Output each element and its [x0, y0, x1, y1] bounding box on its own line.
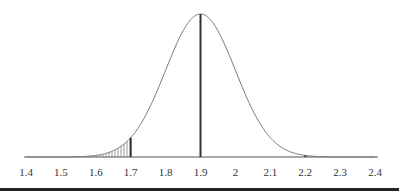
shaded-left-tail	[26, 138, 131, 157]
x-tick-label: 1.8	[159, 166, 173, 178]
x-tick-label: 2.2	[298, 166, 312, 178]
x-tick-label: 2.4	[368, 166, 382, 178]
bottom-rule	[0, 188, 399, 191]
x-tick-label: 2.3	[333, 166, 347, 178]
vertical-markers	[131, 14, 306, 157]
x-tick-label: 2.1	[263, 166, 277, 178]
x-tick-labels: 1.41.51.61.71.81.922.12.22.32.4	[19, 166, 382, 178]
x-tick-label: 1.4	[19, 166, 33, 178]
x-tick-label: 1.9	[194, 166, 208, 178]
x-tick-label: 1.6	[89, 166, 103, 178]
x-tick-label: 2	[233, 166, 239, 178]
x-tick-label: 1.7	[124, 166, 138, 178]
x-tick-label: 1.5	[54, 166, 68, 178]
normal-distribution-chart: 1.41.51.61.71.81.922.12.22.32.4	[0, 0, 399, 194]
